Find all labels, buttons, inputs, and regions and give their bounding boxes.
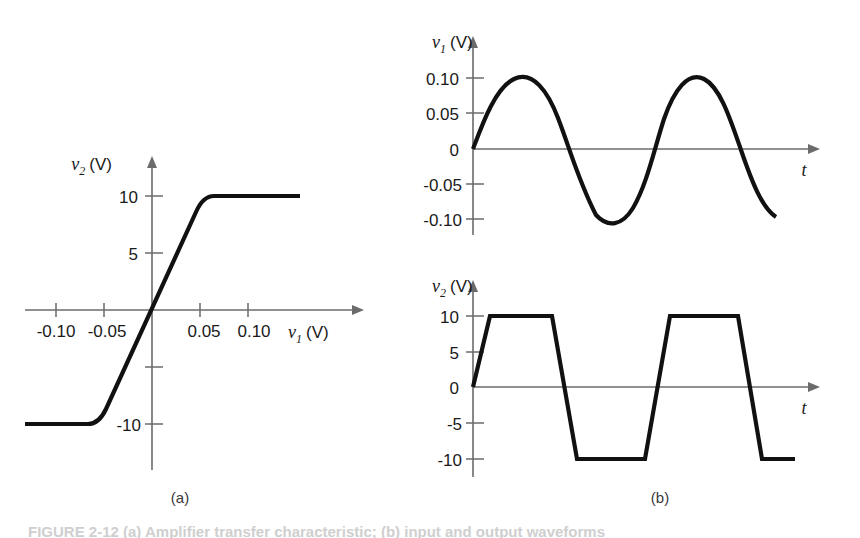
panel-b-top-ytick-005: 0.05 — [426, 105, 459, 124]
panel-a-ytick-5: 5 — [129, 245, 138, 264]
figure-container: 10 5 -10 -0.10 -0.05 0.05 0.10 v2(V) v1(… — [0, 0, 860, 538]
panel-b-top-ytick-010: 0.10 — [426, 70, 459, 89]
panel-a-xtick-005: 0.05 — [187, 322, 220, 341]
figure-caption: FIGURE 2-12 (a) Amplifier transfer chara… — [28, 523, 838, 538]
panel-a-xtick-010: 0.10 — [237, 322, 270, 341]
panel-a-x-axis-label: v1(V) — [288, 322, 329, 346]
panel-b-bottom-y-sub: 2 — [440, 286, 446, 300]
panel-a-y-unit: (V) — [89, 155, 112, 174]
panel-b-top-ytick-neg010: -0.10 — [423, 211, 462, 230]
panel-a-y-var: v — [71, 154, 79, 174]
panel-b-bottom-y-axis-label: v2(V) — [432, 276, 473, 300]
panel-output-waveform: 10 5 0 -5 -10 v2(V) t — [400, 250, 860, 500]
panel-a-x-sub: 1 — [296, 332, 302, 346]
panel-b-top-y-unit: (V) — [450, 33, 473, 52]
panel-b-bottom-x-axis-label: t — [801, 398, 807, 418]
x-axis — [473, 144, 820, 154]
panel-a-ytick-10: 10 — [119, 188, 138, 207]
panel-b-top-ytick-0: 0 — [450, 141, 459, 160]
panel-a-xtick-neg010: -0.10 — [37, 322, 76, 341]
panel-b-top-y-sub: 1 — [440, 42, 446, 56]
panel-b-bottom-y-var: v — [432, 276, 440, 296]
output-waveform-plot: 10 5 0 -5 -10 v2(V) t — [400, 250, 860, 500]
x-axis — [473, 382, 820, 392]
panel-b-top-y-var: v — [432, 32, 440, 52]
sublabel-a: (a) — [140, 489, 220, 506]
x-axis — [25, 305, 364, 315]
panel-b-bottom-y-unit: (V) — [450, 277, 473, 296]
panel-a-xtick-neg005: -0.05 — [88, 322, 127, 341]
input-sine-curve — [473, 77, 776, 223]
panel-b-top-ytick-neg005: -0.05 — [423, 176, 462, 195]
panel-a-y-axis-label: v2(V) — [71, 154, 112, 178]
panel-b-bottom-ytick-5: 5 — [450, 344, 459, 363]
sublabel-b: (b) — [620, 489, 700, 506]
panel-b-bottom-ytick-neg10: -10 — [437, 451, 462, 470]
panel-a-x-unit: (V) — [306, 323, 329, 342]
panel-a-ytick-neg10: -10 — [116, 416, 141, 435]
panel-b-top-y-axis-label: v1(V) — [432, 32, 473, 56]
transfer-characteristic-plot: 10 5 -10 -0.10 -0.05 0.05 0.10 v2(V) v1(… — [0, 0, 400, 538]
panel-a-x-var: v — [288, 322, 296, 342]
panel-b-bottom-ytick-10: 10 — [440, 308, 459, 327]
panel-b-top-x-axis-label: t — [801, 160, 807, 180]
panel-b-bottom-ytick-neg5: -5 — [447, 415, 462, 434]
input-waveform-plot: 0.10 0.05 0 -0.05 -0.10 v1(V) t — [400, 0, 860, 262]
panel-b-bottom-ytick-0: 0 — [450, 379, 459, 398]
panel-input-waveform: 0.10 0.05 0 -0.05 -0.10 v1(V) t — [400, 0, 860, 262]
panel-a-y-sub: 2 — [79, 164, 85, 178]
panel-transfer-characteristic: 10 5 -10 -0.10 -0.05 0.05 0.10 v2(V) v1(… — [0, 0, 400, 538]
